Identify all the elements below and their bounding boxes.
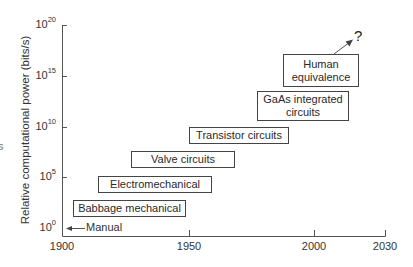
x-tick-1900: 1900 (50, 240, 74, 252)
y-tick-1e15: 1015 (22, 69, 56, 81)
era-box-valve: Valve circuits (131, 151, 235, 168)
era-label-gaas-line1: GaAs integrated (263, 93, 343, 106)
era-label-human-line1: Human (303, 58, 338, 71)
era-label-transistor: Transistor circuits (196, 129, 282, 142)
y-tick-1e5: 105 (22, 170, 56, 182)
era-box-transistor: Transistor circuits (189, 127, 289, 144)
era-box-gaas: GaAs integrated circuits (257, 91, 349, 121)
era-box-electromechanical: Electromechanical (98, 176, 212, 193)
era-label-human-line2: equivalence (292, 71, 351, 84)
y-tick-1e10: 1010 (22, 120, 56, 132)
x-tick-2000: 2000 (302, 240, 326, 252)
era-label-babbage: Babbage mechanical (78, 202, 181, 215)
y-tick-1e0: 100 (22, 221, 56, 233)
y-tick-1e20: 1020 (22, 18, 56, 30)
question-mark-annotation: ? (354, 27, 362, 44)
era-box-babbage: Babbage mechanical (73, 200, 186, 217)
future-arrowhead (346, 40, 354, 47)
x-tick-2030: 2030 (373, 240, 397, 252)
era-label-valve: Valve circuits (151, 153, 215, 166)
manual-arrowhead (66, 226, 72, 231)
x-tick-1950: 1950 (177, 240, 201, 252)
era-label-gaas-line2: circuits (286, 106, 320, 119)
era-label-manual: Manual (86, 221, 122, 233)
era-label-electromechanical: Electromechanical (110, 178, 200, 191)
era-box-human: Human equivalence (283, 54, 359, 87)
